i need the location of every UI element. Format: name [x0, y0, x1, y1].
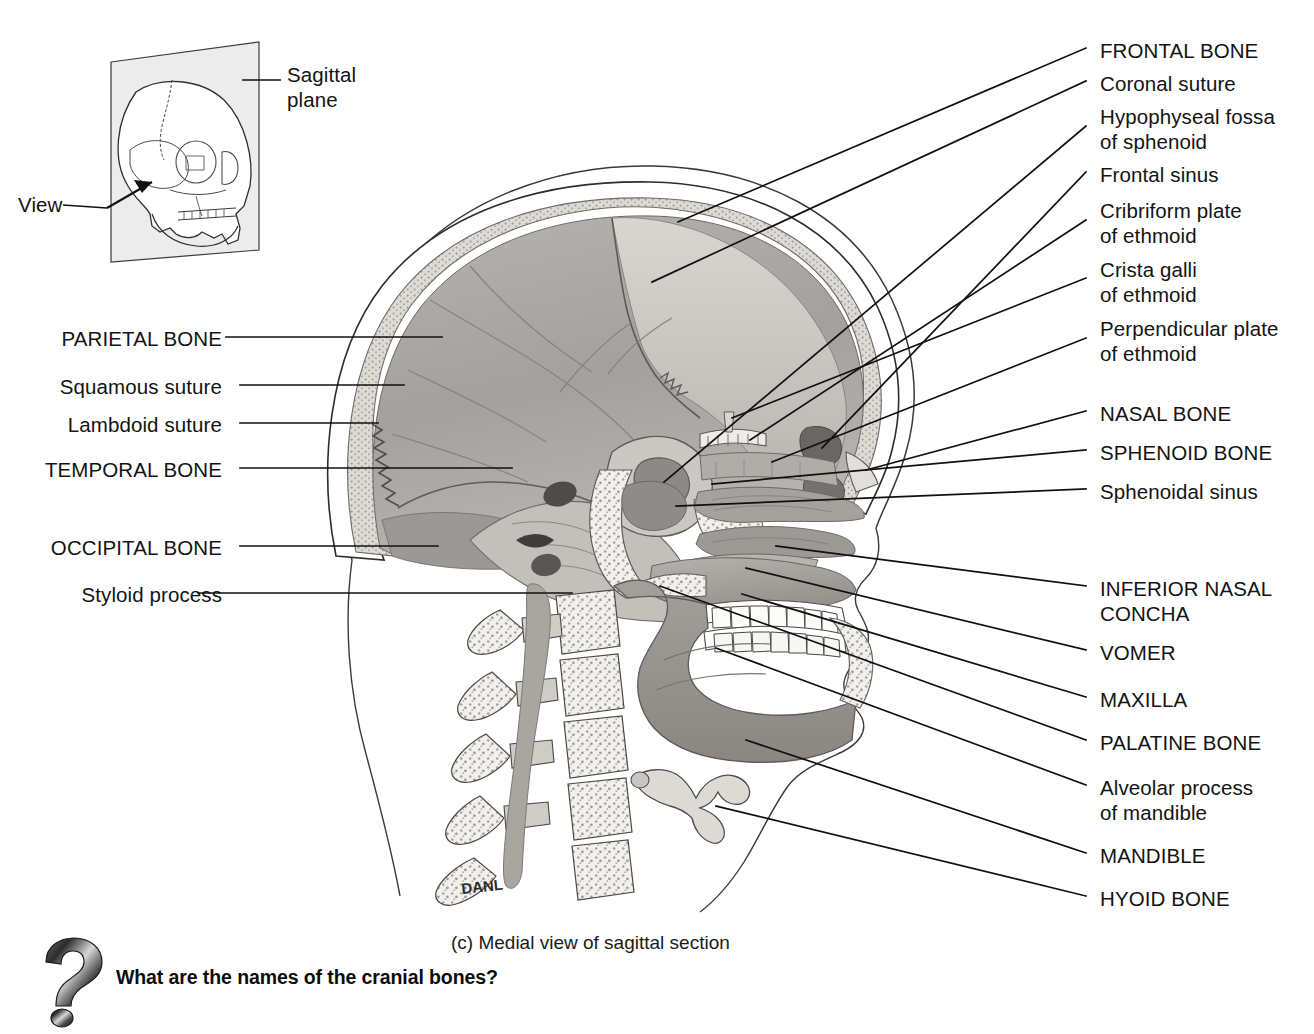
hyoid-bone-graphic	[631, 770, 750, 844]
label-parietal-bone: PARIETAL BONE	[62, 326, 222, 351]
artist-signature: DANL	[461, 876, 504, 897]
label-styloid-process: Styloid process	[81, 582, 222, 607]
label-perpendicular-plate: Perpendicular plate of ethmoid	[1100, 316, 1279, 366]
label-occipital-bone: OCCIPITAL BONE	[51, 535, 222, 560]
skull-illustration: DANL	[328, 166, 914, 912]
label-frontal-sinus: Frontal sinus	[1100, 162, 1219, 187]
label-frontal-bone: FRONTAL BONE	[1100, 38, 1258, 63]
inset-view-label: View	[18, 192, 62, 217]
label-cribriform-plate: Cribriform plate of ethmoid	[1100, 198, 1242, 248]
label-nasal-bone: NASAL BONE	[1100, 401, 1231, 426]
inset-sagittal-plane-label: Sagittal plane	[287, 62, 356, 112]
label-palatine-bone: PALATINE BONE	[1100, 730, 1261, 755]
label-sphenoid-bone: SPHENOID BONE	[1100, 440, 1272, 465]
figure-caption: (c) Medial view of sagittal section	[451, 932, 730, 954]
review-question-text: What are the names of the cranial bones?	[116, 966, 498, 989]
illustration-canvas: DANL	[0, 0, 1314, 1034]
label-alveolar-process: Alveolar process of mandible	[1100, 775, 1253, 825]
label-crista-galli: Crista galli of ethmoid	[1100, 257, 1197, 307]
orientation-inset-graphic	[63, 42, 281, 262]
label-mandible: MANDIBLE	[1100, 843, 1206, 868]
cervical-vertebrae	[436, 584, 634, 905]
label-coronal-suture: Coronal suture	[1100, 71, 1236, 96]
label-hyoid-bone: HYOID BONE	[1100, 886, 1230, 911]
label-vomer: VOMER	[1100, 640, 1176, 665]
question-mark-icon	[26, 936, 110, 1028]
label-lambdoid-suture: Lambdoid suture	[68, 412, 222, 437]
label-inferior-nasal-concha: INFERIOR NASAL CONCHA	[1100, 576, 1272, 626]
skull-sagittal-figure: DANL	[0, 0, 1314, 1034]
label-maxilla: MAXILLA	[1100, 687, 1187, 712]
label-squamous-suture: Squamous suture	[60, 374, 222, 399]
label-sphenoidal-sinus: Sphenoidal sinus	[1100, 479, 1258, 504]
label-temporal-bone: TEMPORAL BONE	[45, 457, 222, 482]
label-hypophyseal-fossa: Hypophyseal fossa of sphenoid	[1100, 104, 1275, 154]
